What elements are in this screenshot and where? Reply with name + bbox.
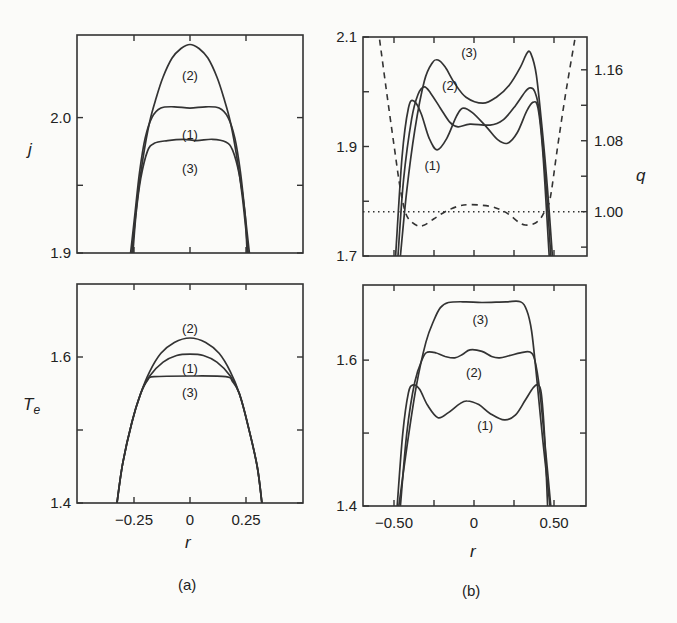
curve-label: (2) <box>182 321 198 336</box>
curve-label: (2) <box>442 78 458 93</box>
y2-tick-label: 1.08 <box>594 132 623 149</box>
y-tick-label: 1.4 <box>50 494 71 511</box>
y-tick-label: 2.0 <box>50 109 71 126</box>
curves <box>397 301 551 506</box>
y-tick-label: 1.9 <box>50 244 71 261</box>
y2-axis-label-q: q <box>636 166 646 185</box>
curve-label: (1) <box>182 361 198 376</box>
y2-tick-label: 1.16 <box>594 61 623 78</box>
y-axis-label-j: j <box>26 140 33 159</box>
curve-label: (3) <box>182 385 198 400</box>
x-tick-label: 0.25 <box>231 511 260 528</box>
x-tick-label: 0 <box>470 514 478 531</box>
panel-label-b: (b) <box>462 582 480 599</box>
panel-label-a: (a) <box>178 576 196 593</box>
y-tick-label: 2.1 <box>336 28 357 45</box>
x-tick-label: −0.50 <box>375 514 413 531</box>
x-tick-label: 0.50 <box>539 514 568 531</box>
y-tick-label: 1.7 <box>336 247 357 264</box>
plot-frame <box>363 37 587 256</box>
x-axis-label-r-a: r <box>185 533 192 552</box>
curve-3 <box>399 301 550 506</box>
y-tick-label: 1.6 <box>336 351 357 368</box>
curve-label: (3) <box>472 312 488 327</box>
plot-area-a-bottom: (2)(1)(3)1.41.6−0.2500.25 <box>50 284 303 528</box>
curve-label: (1) <box>182 127 198 142</box>
curve-label: (1) <box>477 418 493 433</box>
x-tick-label: −0.25 <box>115 511 153 528</box>
panel-a-bottom-temperature: (2)(1)(3)1.41.6−0.2500.25 Te r (a) <box>23 284 303 593</box>
x-tick-label: 0 <box>186 511 194 528</box>
curve-label: (2) <box>182 68 198 83</box>
curve-label: (3) <box>461 45 477 60</box>
plot-area-a-top: (2)(1)(3)1.92.0 <box>50 35 303 261</box>
plot-area-b-top: (3)(2)(1)1.71.92.11.001.081.16 <box>336 28 623 264</box>
panel-b-bottom-temperature: (3)(2)(1)1.41.6−0.5000.50 r (b) <box>336 285 586 599</box>
y-tick-label: 1.6 <box>50 348 71 365</box>
curve-label: (3) <box>182 161 198 176</box>
y-tick-label: 1.4 <box>336 497 357 514</box>
y2-tick-label: 1.00 <box>594 203 623 220</box>
curve-1 <box>397 385 547 506</box>
curve-3 <box>133 139 247 253</box>
curves <box>363 40 587 256</box>
y-tick-label: 1.9 <box>336 138 357 155</box>
y-axis-label-te: Te <box>23 395 40 417</box>
curve-label: (2) <box>466 365 482 380</box>
x-axis-label-r-b: r <box>470 542 477 561</box>
figure-canvas: (2)(1)(3)1.92.0 j (2)(1)(3)1.41.6−0.2500… <box>0 0 677 623</box>
plot-area-b-bottom: (3)(2)(1)1.41.6−0.5000.50 <box>336 285 586 531</box>
curve-label: (1) <box>424 158 440 173</box>
panel-b-top-current-and-safety-factor: (3)(2)(1)1.71.92.11.001.081.16 q <box>336 28 646 264</box>
panel-a-top-current-density: (2)(1)(3)1.92.0 j <box>26 35 303 261</box>
